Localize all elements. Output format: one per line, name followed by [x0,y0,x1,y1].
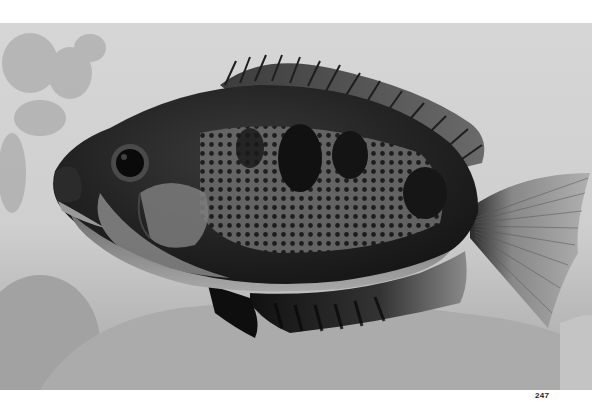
page-number: 247 [535,391,549,400]
fish-illustration [0,23,592,390]
fish-photograph: cichlid fish in side profile, facing lef… [0,23,592,390]
book-page: cichlid fish in side profile, facing lef… [0,0,592,419]
